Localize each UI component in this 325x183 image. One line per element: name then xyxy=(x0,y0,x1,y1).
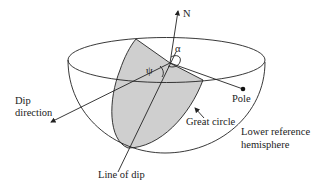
dip-direction-label-2: direction xyxy=(15,107,52,119)
great-circle-label: Great circle xyxy=(186,116,235,128)
line-of-dip-label: Line of dip xyxy=(98,169,145,181)
hemisphere-diagram xyxy=(0,0,325,183)
pole-label: Pole xyxy=(232,93,251,105)
hemisphere-label-1: Lower reference xyxy=(241,126,310,138)
hemisphere-label-2: hemisphere xyxy=(241,139,289,151)
alpha-label: α xyxy=(175,43,181,55)
psi-label: ψ xyxy=(146,65,153,77)
pole-point xyxy=(241,87,246,92)
dip-direction-label-1: Dip xyxy=(15,95,31,107)
north-label: N xyxy=(183,8,191,20)
